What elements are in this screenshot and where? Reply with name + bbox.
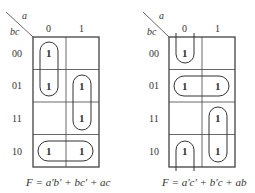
- col-header-0: 0: [182, 23, 187, 34]
- row-variable-label: bc: [147, 26, 157, 37]
- col-header-1: 1: [215, 23, 220, 34]
- cell-11-1: 1: [215, 112, 221, 124]
- cell-10-0: 1: [182, 145, 188, 157]
- row-header-10: 10: [149, 146, 159, 157]
- row-header-00: 00: [12, 48, 22, 59]
- row-header-01: 01: [149, 80, 159, 91]
- col-header-1: 1: [79, 23, 84, 34]
- cell-01-0: 1: [182, 80, 188, 92]
- cell-10-1: 1: [215, 145, 221, 157]
- kmap-right: a bc 0 1 00 01 11 10 1 1 1 1 1 1 F = a′c…: [143, 10, 247, 188]
- row-header-11: 11: [12, 113, 22, 124]
- cell-01-1: 1: [215, 80, 221, 92]
- equation-left: F = a′b′ + bc′ + ac: [25, 176, 111, 188]
- row-header-01: 01: [12, 80, 22, 91]
- row-header-11: 11: [149, 113, 159, 124]
- equation-right: F = a′c′ + b′c + ab: [161, 176, 247, 188]
- cell-11-1: 1: [79, 112, 85, 124]
- cell-01-1: 1: [79, 80, 85, 92]
- cell-10-1: 1: [79, 145, 85, 157]
- kmap-diagram: a bc 0 1 00 01 11 10 1 1 1 1 1 1 F = a′b…: [0, 0, 255, 193]
- kmap-left: a bc 0 1 00 01 11 10 1 1 1 1 1 1 F = a′b…: [6, 10, 111, 188]
- cell-01-0: 1: [46, 80, 52, 92]
- col-variable-label: a: [159, 10, 164, 21]
- cell-00-0: 1: [46, 47, 52, 59]
- col-header-0: 0: [46, 23, 51, 34]
- col-variable-label: a: [22, 10, 27, 21]
- cell-10-0: 1: [46, 145, 52, 157]
- row-header-00: 00: [149, 48, 159, 59]
- row-variable-label: bc: [10, 26, 20, 37]
- cell-00-0: 1: [182, 47, 188, 59]
- row-header-10: 10: [12, 146, 22, 157]
